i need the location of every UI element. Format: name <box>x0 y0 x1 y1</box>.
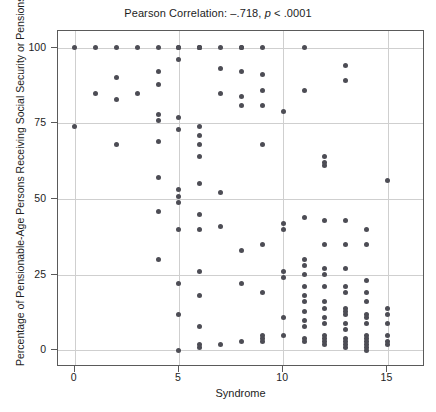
data-point <box>364 242 369 247</box>
data-point <box>343 218 348 223</box>
data-point <box>176 127 181 132</box>
data-point <box>197 212 202 217</box>
data-point <box>239 94 244 99</box>
data-point <box>176 45 181 50</box>
data-point <box>93 45 98 50</box>
data-point <box>343 63 348 68</box>
data-point <box>260 242 265 247</box>
y-tick-label-100: 100 <box>0 41 46 53</box>
data-point <box>72 124 77 129</box>
data-point <box>364 348 369 353</box>
x-tick-label-0: 0 <box>71 371 77 383</box>
data-point <box>302 45 307 50</box>
scatter-plot-figure: Pearson Correlation: –.718, p < .0001 Pe… <box>0 0 436 412</box>
data-point <box>322 163 327 168</box>
data-point <box>176 281 181 286</box>
data-point <box>239 281 244 286</box>
x-tick-mark-15 <box>386 366 387 372</box>
data-point <box>343 312 348 317</box>
data-point <box>239 45 244 50</box>
data-point <box>218 91 223 96</box>
data-point <box>385 312 390 317</box>
data-point <box>302 293 307 298</box>
x-tick-label-15: 15 <box>381 371 393 383</box>
data-point <box>239 248 244 253</box>
y-tick-mark-100 <box>51 47 57 48</box>
data-point <box>343 345 348 350</box>
data-point <box>114 142 119 147</box>
data-point <box>302 284 307 289</box>
data-point <box>385 321 390 326</box>
data-point <box>260 290 265 295</box>
data-point <box>281 275 286 280</box>
data-point <box>218 66 223 71</box>
data-point <box>260 45 265 50</box>
data-point <box>364 299 369 304</box>
data-point <box>197 142 202 147</box>
data-point <box>364 290 369 295</box>
gridline-y-50 <box>58 199 423 200</box>
data-point <box>218 190 223 195</box>
data-point <box>322 218 327 223</box>
data-point <box>135 91 140 96</box>
data-point <box>322 321 327 326</box>
x-tick-mark-10 <box>282 366 283 372</box>
data-point <box>322 306 327 311</box>
data-point <box>260 72 265 77</box>
data-point <box>322 272 327 277</box>
chart-title: Pearson Correlation: –.718, p < .0001 <box>0 7 436 19</box>
data-point <box>385 342 390 347</box>
data-point <box>281 109 286 114</box>
x-axis-label: Syndrome <box>57 387 424 399</box>
data-point <box>322 299 327 304</box>
data-point <box>343 284 348 289</box>
data-point <box>156 82 161 87</box>
data-point <box>364 315 369 320</box>
x-tick-mark-0 <box>74 366 75 372</box>
data-point <box>176 57 181 62</box>
gridline-x-0 <box>75 31 76 365</box>
data-point <box>302 299 307 304</box>
data-point <box>343 321 348 326</box>
data-point <box>281 221 286 226</box>
x-tick-label-10: 10 <box>276 371 288 383</box>
data-point <box>302 257 307 262</box>
data-point <box>218 342 223 347</box>
data-point <box>322 284 327 289</box>
data-point <box>197 133 202 138</box>
gridline-y-75 <box>58 123 423 124</box>
data-point <box>197 227 202 232</box>
data-point <box>322 342 327 347</box>
data-point <box>176 348 181 353</box>
data-point <box>239 69 244 74</box>
data-point <box>322 315 327 320</box>
data-point <box>156 175 161 180</box>
data-point <box>343 327 348 332</box>
data-point <box>156 45 161 50</box>
data-point <box>302 263 307 268</box>
data-point <box>197 154 202 159</box>
data-point <box>260 88 265 93</box>
data-point <box>302 324 307 329</box>
data-point <box>302 309 307 314</box>
data-point <box>156 69 161 74</box>
data-point <box>302 318 307 323</box>
data-point <box>176 227 181 232</box>
x-tick-label-5: 5 <box>175 371 181 383</box>
data-point <box>343 266 348 271</box>
data-point <box>281 269 286 274</box>
data-point <box>385 333 390 338</box>
y-tick-label-50: 50 <box>0 192 46 204</box>
data-point <box>197 324 202 329</box>
data-point <box>93 91 98 96</box>
data-point <box>302 215 307 220</box>
y-tick-mark-25 <box>51 274 57 275</box>
data-point <box>322 242 327 247</box>
data-point <box>135 45 140 50</box>
data-point <box>260 142 265 147</box>
data-point <box>239 339 244 344</box>
data-point <box>156 209 161 214</box>
data-point <box>343 242 348 247</box>
data-point <box>239 103 244 108</box>
data-point <box>364 321 369 326</box>
